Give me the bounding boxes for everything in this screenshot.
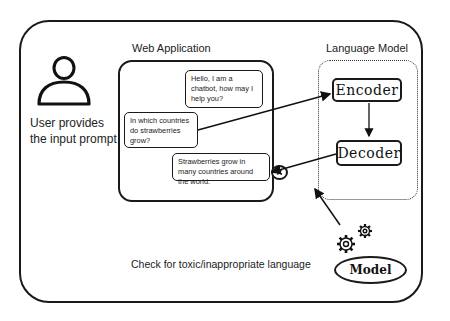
language-model-title: Language Model (326, 42, 408, 54)
filter-caption: Check for toxic/inappropriate language (131, 258, 311, 270)
decoder-label: Decoder (337, 145, 400, 161)
gears-icon (333, 221, 379, 257)
chat-bubble-question: In which countries do strawberries grow? (124, 112, 198, 148)
web-app-title: Web Application (132, 42, 211, 54)
person-icon (34, 54, 94, 110)
user-label: User provides the input prompt (30, 115, 120, 147)
encoder-label: Encoder (336, 82, 399, 98)
x-circle-icon: × (271, 165, 288, 180)
decoder-box: Decoder (336, 140, 402, 166)
model-label: Model (350, 263, 392, 277)
encoder-box: Encoder (332, 78, 402, 102)
chat-bubble-answer: Strawberries grow in many countries arou… (172, 153, 270, 181)
chat-bubble-greeting: Hello, I am a chatbot, how may I help yo… (185, 70, 263, 108)
model-badge: Model (334, 256, 407, 284)
